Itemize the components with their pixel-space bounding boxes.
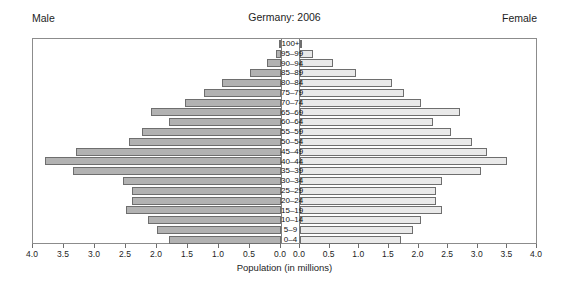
female-bar-cell [300, 78, 536, 88]
male-bar-cell [33, 137, 281, 147]
axis-tick [418, 244, 419, 248]
age-group-label: 70–74 [281, 98, 300, 108]
axis-tick [506, 244, 507, 248]
female-bar [300, 138, 472, 146]
axis-tick-label: 1.0 [212, 249, 224, 259]
axis-tick-label: 3.5 [500, 249, 512, 259]
female-bar [300, 59, 333, 67]
male-bar [45, 157, 281, 165]
male-bar-cell [33, 186, 281, 196]
male-bar-cell [33, 215, 281, 225]
axis-tick-label: 2.0 [412, 249, 424, 259]
age-group-label: 60–64 [281, 117, 300, 127]
axis-tick-label: 3.0 [471, 249, 483, 259]
female-bar-cell [300, 166, 536, 176]
axis-tick [32, 244, 33, 248]
female-bar-cell [300, 49, 536, 59]
age-group-label: 100+ [281, 39, 300, 49]
female-bar [300, 148, 487, 156]
male-bar-cell [33, 117, 281, 127]
male-bar [123, 177, 281, 185]
female-bar [300, 108, 460, 116]
male-bar-cell [33, 49, 281, 59]
female-bar-cell [300, 176, 536, 186]
male-bar [157, 226, 281, 234]
male-bar [73, 167, 281, 175]
male-bar-cell [33, 39, 281, 49]
age-group-label: 45–49 [281, 147, 300, 157]
age-group-label: 40–44 [281, 157, 300, 167]
age-group-label: 10–14 [281, 215, 300, 225]
female-bar [300, 157, 507, 165]
chart-title: Germany: 2006 [0, 11, 569, 23]
axis-tick-label: 4.0 [26, 249, 38, 259]
female-bar-cell [300, 39, 536, 49]
axis-tick-label: 0.0 [293, 249, 305, 259]
axis-tick-label: 1.0 [352, 249, 364, 259]
age-group-label: 25–29 [281, 186, 300, 196]
age-group-label: 20–24 [281, 196, 300, 206]
male-bar [250, 69, 281, 77]
female-bar [300, 79, 392, 87]
male-bar-cell [33, 98, 281, 108]
axis-tick [329, 244, 330, 248]
axis-tick-label: 3.0 [88, 249, 100, 259]
axis-tick [536, 244, 537, 248]
axis-tick-label: 2.0 [150, 249, 162, 259]
axis-tick [388, 244, 389, 248]
female-bar [300, 40, 302, 48]
female-bar [300, 69, 356, 77]
male-bar-cell [33, 127, 281, 137]
age-group-label: 75–79 [281, 88, 300, 98]
age-group-labels: 100+95–9990–9485–8980–8475–7970–7465–696… [281, 39, 300, 243]
male-bar [132, 197, 281, 205]
age-group-label: 0–4 [281, 235, 300, 245]
axis-tick-label: 1.5 [181, 249, 193, 259]
male-bar-cell [33, 59, 281, 69]
age-group-label: 55–59 [281, 127, 300, 137]
axis-tick [94, 244, 95, 248]
x-axis-title: Population (in millions) [0, 262, 569, 273]
axis-tick [218, 244, 219, 248]
axis-tick [156, 244, 157, 248]
female-bar [300, 206, 442, 214]
axis-tick [63, 244, 64, 248]
age-group-label: 5–9 [281, 225, 300, 235]
axis-tick-label: 1.5 [382, 249, 394, 259]
axis-tick-label: 2.5 [119, 249, 131, 259]
female-bar-cell [300, 108, 536, 118]
male-bar-cell [33, 108, 281, 118]
male-bar-cell [33, 166, 281, 176]
male-bar [132, 187, 281, 195]
female-bar-cell [300, 225, 536, 235]
male-bar [148, 216, 281, 224]
male-bar-cell [33, 147, 281, 157]
female-bar-cell [300, 157, 536, 167]
axis-tick [125, 244, 126, 248]
male-bar-cell [33, 88, 281, 98]
female-bar [300, 89, 404, 97]
female-bar [300, 216, 421, 224]
age-group-label: 80–84 [281, 78, 300, 88]
age-group-label: 65–69 [281, 108, 300, 118]
axis-tick [249, 244, 250, 248]
female-bar-cell [300, 98, 536, 108]
male-bar [169, 118, 281, 126]
female-bar-cell [300, 68, 536, 78]
age-group-label: 15–19 [281, 206, 300, 216]
male-bar [169, 236, 281, 244]
female-bar [300, 236, 401, 244]
female-bar [300, 177, 442, 185]
axis-tick-label: 0.5 [323, 249, 335, 259]
age-group-label: 50–54 [281, 137, 300, 147]
male-bar [185, 99, 281, 107]
axis-tick [358, 244, 359, 248]
age-group-label: 95–99 [281, 49, 300, 59]
male-bar-cell [33, 176, 281, 186]
axis-tick [477, 244, 478, 248]
axis-tick-label: 2.5 [441, 249, 453, 259]
plot-area: 100+95–9990–9485–8980–8475–7970–7465–696… [32, 38, 537, 244]
male-bar [267, 59, 281, 67]
female-bar-cell [300, 147, 536, 157]
axis-tick-label: 0.0 [274, 249, 286, 259]
